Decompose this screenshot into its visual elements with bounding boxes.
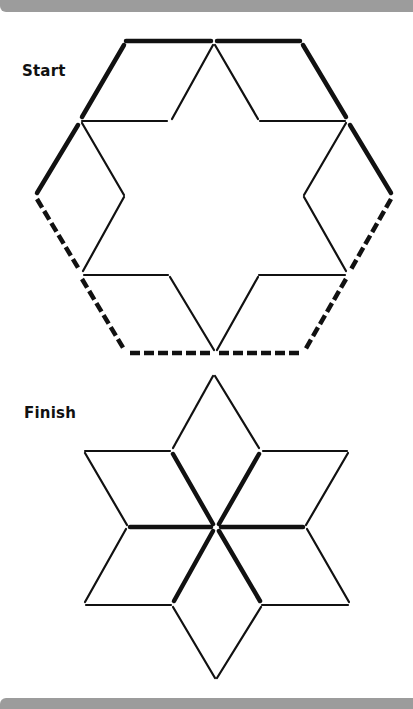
- start-figure: [37, 41, 391, 353]
- puzzle-diagram: [0, 0, 413, 709]
- finish-figure: [85, 376, 349, 678]
